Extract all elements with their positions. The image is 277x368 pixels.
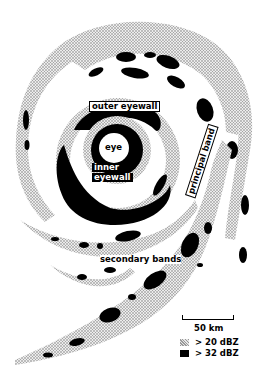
- legend-item-20dbz: > 20 dBZ: [180, 337, 239, 347]
- legend-label: > 32 dBZ: [195, 348, 239, 358]
- legend-label: > 20 dBZ: [195, 337, 239, 347]
- label-outer-eyewall: outer eyewall: [89, 101, 160, 112]
- stippled-swatch-icon: [180, 339, 189, 346]
- label-eye: eye: [105, 143, 122, 152]
- scale-bar: [182, 315, 234, 320]
- legend-item-32dbz: > 32 dBZ: [180, 348, 239, 358]
- label-inner-eyewall-2: eyewall: [92, 173, 133, 182]
- scale-bar-label: 50 km: [194, 323, 223, 333]
- label-secondary-bands: secondary bands: [100, 255, 181, 264]
- hurricane-reflectivity-diagram: [0, 0, 277, 368]
- solid-swatch-icon: [180, 350, 189, 357]
- label-inner-eyewall-1: inner: [92, 163, 121, 172]
